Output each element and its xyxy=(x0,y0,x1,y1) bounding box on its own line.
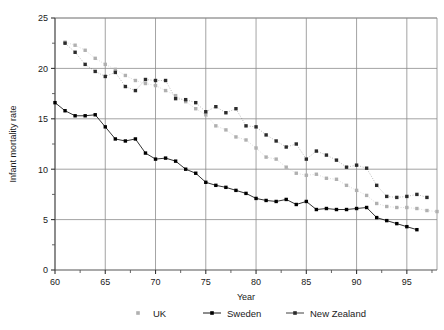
legend-label: New Zealand xyxy=(310,308,366,319)
data-point xyxy=(295,203,298,206)
data-point xyxy=(355,163,358,166)
data-point xyxy=(395,222,398,225)
data-point xyxy=(204,113,207,116)
data-point xyxy=(375,202,378,205)
data-point xyxy=(254,125,257,128)
data-point xyxy=(214,105,217,108)
data-point xyxy=(375,184,378,187)
legend-item-new-zealand[interactable]: New Zealand xyxy=(286,308,366,319)
data-point xyxy=(435,210,438,213)
data-point xyxy=(335,158,338,161)
y-tick-label: 20 xyxy=(38,64,48,74)
data-point xyxy=(174,97,177,100)
data-point xyxy=(405,225,408,228)
y-tick-label: 0 xyxy=(43,265,48,275)
data-point xyxy=(134,137,137,140)
data-point xyxy=(345,208,348,211)
data-point xyxy=(254,197,257,200)
y-tick-label: 15 xyxy=(38,114,48,124)
x-tick-label: 80 xyxy=(251,277,261,287)
data-point xyxy=(285,198,288,201)
x-tick-label: 85 xyxy=(301,277,311,287)
data-point xyxy=(335,208,338,211)
x-tick-label: 70 xyxy=(151,277,161,287)
data-point xyxy=(204,110,207,113)
data-point xyxy=(244,138,247,141)
data-point xyxy=(305,157,308,160)
legend-marker xyxy=(136,311,140,315)
data-point xyxy=(53,101,56,104)
data-point xyxy=(325,153,328,156)
data-point xyxy=(405,195,408,198)
data-point xyxy=(104,125,107,128)
data-point xyxy=(295,142,298,145)
data-point xyxy=(73,51,76,54)
data-point xyxy=(315,173,318,176)
y-tick-label: 25 xyxy=(38,13,48,23)
legend-item-sweden[interactable]: Sweden xyxy=(203,308,261,319)
x-tick-label: 90 xyxy=(352,277,362,287)
data-point xyxy=(264,199,267,202)
data-point xyxy=(194,172,197,175)
legend-label: Sweden xyxy=(227,308,261,319)
data-point xyxy=(194,107,197,110)
data-point xyxy=(83,114,86,117)
x-tick-label: 65 xyxy=(100,277,110,287)
data-point xyxy=(184,98,187,101)
data-point xyxy=(224,186,227,189)
legend-item-uk[interactable]: UK xyxy=(136,308,167,319)
data-point xyxy=(285,165,288,168)
data-point xyxy=(104,75,107,78)
y-tick-label: 5 xyxy=(43,215,48,225)
data-point xyxy=(83,63,86,66)
data-point xyxy=(395,196,398,199)
data-point xyxy=(114,68,117,71)
y-axis-title: Infant mortality rate xyxy=(8,105,18,182)
data-point xyxy=(124,139,127,142)
data-point xyxy=(83,49,86,52)
x-tick-label: 60 xyxy=(50,277,60,287)
data-point xyxy=(355,189,358,192)
data-point xyxy=(73,114,76,117)
data-point xyxy=(274,139,277,142)
infant-mortality-chart: 05101520256065707580859095YearInfant mor… xyxy=(0,0,444,330)
data-point xyxy=(365,206,368,209)
data-point xyxy=(234,189,237,192)
data-point xyxy=(254,146,257,149)
data-point xyxy=(144,82,147,85)
data-point xyxy=(63,42,66,45)
data-point xyxy=(114,71,117,74)
data-point xyxy=(214,124,217,127)
data-point xyxy=(244,124,247,127)
data-point xyxy=(405,206,408,209)
data-point xyxy=(264,155,267,158)
data-point xyxy=(325,177,328,180)
data-point xyxy=(154,157,157,160)
data-point xyxy=(164,156,167,159)
data-point xyxy=(73,44,76,47)
data-point xyxy=(174,159,177,162)
legend-marker xyxy=(293,311,297,315)
data-point xyxy=(134,89,137,92)
data-point xyxy=(365,194,368,197)
data-point xyxy=(154,79,157,82)
data-point xyxy=(104,63,107,66)
chart-container: 05101520256065707580859095YearInfant mor… xyxy=(0,0,444,330)
data-point xyxy=(63,109,66,112)
data-point xyxy=(244,192,247,195)
data-point xyxy=(234,107,237,110)
x-axis-title: Year xyxy=(237,292,255,302)
data-point xyxy=(305,200,308,203)
legend-label: UK xyxy=(153,308,167,319)
data-point xyxy=(305,174,308,177)
data-point xyxy=(214,184,217,187)
data-point xyxy=(345,165,348,168)
data-point xyxy=(174,94,177,97)
data-point xyxy=(385,195,388,198)
data-point xyxy=(124,74,127,77)
data-point xyxy=(94,57,97,60)
data-point xyxy=(335,178,338,181)
data-point xyxy=(114,137,117,140)
data-point xyxy=(385,205,388,208)
data-point xyxy=(264,133,267,136)
